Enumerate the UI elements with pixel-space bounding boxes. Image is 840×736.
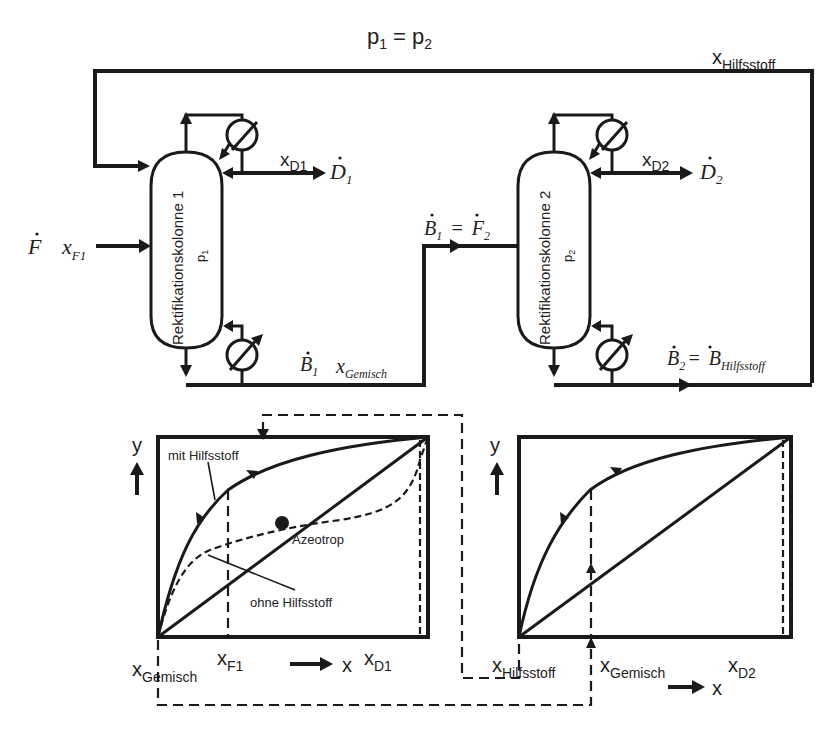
svg-text:xGemisch: xGemisch (132, 658, 197, 685)
svg-text:xD1: xD1 (364, 647, 392, 674)
svg-text:B1=F2: B1=F2 (424, 217, 490, 243)
svg-text:xGemisch: xGemisch (335, 355, 387, 381)
svg-text:mit Hilfsstoff: mit Hilfsstoff (168, 448, 239, 463)
equilibrium-diagram-right: y x xHilfsstoff xGemisch xD2 (490, 434, 791, 699)
svg-text:p1=p2: p1=p2 (367, 24, 432, 52)
svg-text:x: x (712, 677, 722, 699)
column-2: Rektifikationskolonne 2 p2 (518, 152, 590, 348)
svg-text:xD1: xD1 (280, 149, 308, 174)
equilibrium-diagram-left: mit Hilfsstoff Azeotrop ohne Hilfsstoff … (130, 434, 428, 685)
svg-text:B2=BHilfsstoff: B2=BHilfsstoff (667, 347, 767, 373)
svg-text:Azeotrop: Azeotrop (292, 532, 344, 547)
svg-text:xD2: xD2 (728, 654, 756, 681)
svg-text:x: x (342, 654, 352, 676)
column-1-reboiler: B1 xGemisch B1=F2 (180, 213, 518, 385)
extractive-distillation-diagram: p1=p2 xHilfsstoff Rektifikationskolonne … (0, 0, 840, 736)
svg-text:Rektifikationskolonne 2: Rektifikationskolonne 2 (536, 191, 553, 345)
svg-text:xHilfsstoff: xHilfsstoff (712, 46, 776, 73)
svg-text:y: y (490, 434, 500, 456)
feed-stream: F xF1 (27, 232, 151, 263)
svg-text:D2: D2 (699, 159, 723, 187)
svg-text:ohne Hilfsstoff: ohne Hilfsstoff (250, 595, 333, 610)
svg-text:B1: B1 (300, 353, 318, 379)
svg-text:Rektifikationskolonne 1: Rektifikationskolonne 1 (169, 191, 186, 345)
svg-text:xD2: xD2 (642, 149, 670, 174)
svg-text:D1: D1 (329, 159, 352, 187)
pressure-equality-title: p1=p2 (367, 24, 432, 52)
svg-text:F: F (27, 234, 42, 259)
column-1: Rektifikationskolonne 1 p1 (151, 152, 222, 348)
svg-text:xF1: xF1 (217, 647, 244, 674)
svg-text:y: y (132, 434, 142, 456)
svg-text:xF1: xF1 (61, 234, 86, 263)
svg-text:xGemisch: xGemisch (600, 654, 665, 681)
